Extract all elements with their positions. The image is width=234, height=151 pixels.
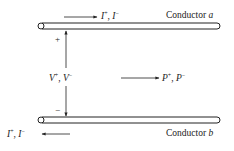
current-label-top: I+, I− (100, 10, 119, 21)
conductor-b-label: Conductor b (166, 128, 213, 138)
conductor-a (38, 23, 220, 29)
transmission-line-diagram: Conductor a I+, I− + − V+, V− P+, P− Con… (0, 0, 234, 151)
voltage-plus-sign: + (55, 34, 60, 44)
current-label-bottom: I+, I− (6, 128, 25, 139)
voltage-minus-sign: − (55, 105, 60, 115)
voltage-label: V+, V− (49, 72, 73, 83)
power-label: P+, P− (161, 72, 186, 83)
conductor-a-label: Conductor a (166, 10, 213, 20)
conductor-b (38, 117, 220, 123)
